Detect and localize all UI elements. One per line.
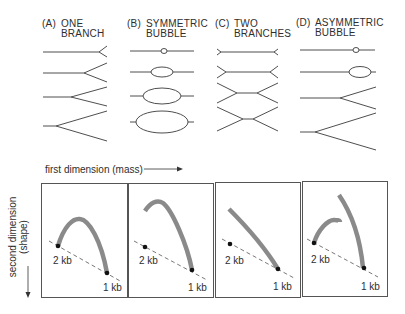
- panel-3-dot-2kb: [228, 242, 233, 247]
- column-c-label: (C)TWO BRANCHES: [215, 19, 291, 39]
- panel-1-dot-2kb: [56, 244, 61, 249]
- y-axis-label-line2: (shape): [18, 187, 29, 287]
- panel-4-dot-2kb: [312, 241, 317, 246]
- column-d-label: (D)ASYMMETRIC BUBBLE: [296, 18, 384, 38]
- y-axis-label: second dimension (shape): [7, 187, 29, 287]
- y-axis-label-line1: second dimension: [7, 187, 18, 287]
- column-b-tag: (B): [127, 19, 146, 29]
- panel-3-dot-1kb: [276, 267, 281, 272]
- column-c-tag: (C): [215, 19, 234, 29]
- x-axis-label: first dimension (mass): [45, 164, 143, 175]
- panel-4-dot-1kb: [362, 266, 367, 271]
- column-b-label: (B)SYMMETRIC BUBBLE: [127, 19, 208, 39]
- panel-4-arc-large: [339, 195, 363, 268]
- panel-3-label-2kb: 2 kb: [225, 255, 244, 266]
- panel-3-label-1kb: 1 kb: [273, 281, 292, 292]
- panel-4-label-1kb: 1 kb: [361, 281, 380, 292]
- panel-1-label-1kb: 1 kb: [103, 282, 122, 293]
- column-c-structures: [217, 49, 278, 131]
- panel-4-label-2kb: 2 kb: [311, 254, 330, 265]
- column-a-structures: [43, 46, 107, 141]
- column-a-title-line2: BRANCH: [42, 29, 104, 39]
- column-b-title-line2: BUBBLE: [127, 29, 208, 39]
- panel-4-arc-small: [314, 220, 340, 243]
- column-a-tag: (A): [42, 19, 61, 29]
- column-b-structures: [130, 49, 194, 134]
- column-d-title-line2: BUBBLE: [296, 28, 384, 38]
- panel-2-dot-2kb: [143, 245, 148, 250]
- diagram-graphics: [0, 0, 405, 314]
- panel-2-label-1kb: 1 kb: [188, 282, 207, 293]
- column-c-title-line2: BRANCHES: [215, 29, 291, 39]
- column-a-label: (A)ONE BRANCH: [42, 19, 104, 39]
- x-axis-arrow: [144, 167, 183, 172]
- column-d-tag: (D): [296, 18, 315, 28]
- panel-borders: [42, 182, 388, 298]
- panel-2-dot-1kb: [190, 268, 195, 273]
- panel-1-dot-1kb: [105, 271, 110, 276]
- column-d-structures: [300, 48, 376, 151]
- panel-2-label-2kb: 2 kb: [139, 255, 158, 266]
- panel-1-label-2kb: 2 kb: [53, 255, 72, 266]
